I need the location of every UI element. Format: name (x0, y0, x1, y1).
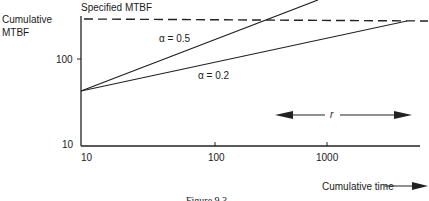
x-axis-label: Cumulative time (322, 181, 394, 192)
y-tick-label-100: 100 (56, 54, 73, 65)
figure-caption: Figure 9.3 (186, 195, 227, 201)
specified-mtbf-label: Specified MTBF (81, 2, 152, 13)
r-label: r (330, 109, 333, 120)
x-tick-label-10: 10 (81, 152, 92, 163)
r-range-arrow (275, 111, 412, 119)
alpha-0.5-label: α = 0.5 (159, 33, 190, 44)
y-axis-label-line1: Cumulative (2, 14, 52, 25)
y-tick-label-10: 10 (62, 139, 73, 150)
x-tick-label-100: 100 (208, 152, 225, 163)
x-tick-label-1000: 1000 (316, 152, 338, 163)
alpha-0.2-line (81, 21, 407, 91)
specified-mtbf-line (84, 19, 428, 21)
y-axis-label-line2: MTBF (2, 27, 29, 38)
alpha-0.2-label: α = 0.2 (198, 70, 229, 81)
chart-canvas (0, 0, 429, 201)
